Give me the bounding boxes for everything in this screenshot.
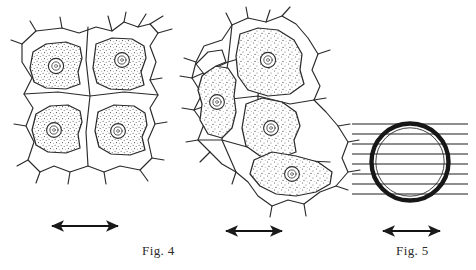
nucleus <box>285 167 300 182</box>
protoplast-upper-left <box>30 42 82 89</box>
protoplast-lower <box>250 152 332 196</box>
cell-wall-network-left <box>11 12 172 184</box>
nucleus <box>210 95 225 110</box>
nucleus <box>260 52 275 67</box>
protoplast-left-middle <box>198 66 236 138</box>
protoplast-upper-right <box>93 38 146 90</box>
cell-outer-wall <box>372 124 449 201</box>
nucleus <box>48 58 63 73</box>
protoplast-center <box>242 98 300 158</box>
fig5-cross-section <box>352 124 468 201</box>
nucleus <box>111 124 126 139</box>
nucleus <box>115 53 130 68</box>
nucleus <box>47 123 62 138</box>
cell-inner-wall <box>376 128 444 196</box>
figure-caption-fig5: Fig. 5 <box>396 243 429 259</box>
protoplast-lower-right <box>95 105 147 155</box>
figure-plate: Fig. 4 Fig. 5 <box>0 0 476 270</box>
fig4-right-cluster <box>180 7 360 217</box>
fig4-left-cluster <box>11 12 172 184</box>
botanical-illustration-canvas <box>0 0 476 270</box>
nucleus <box>264 121 279 136</box>
protoplast-top <box>236 28 304 96</box>
hatch-lines <box>352 124 468 194</box>
protoplast-lower-left <box>32 105 82 153</box>
figure-caption-fig4: Fig. 4 <box>142 243 175 259</box>
